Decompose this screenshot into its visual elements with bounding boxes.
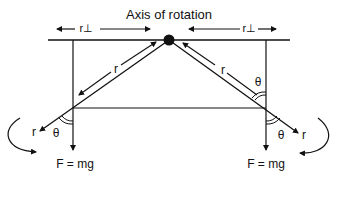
r-perp-left-dimension: r⊥	[57, 22, 150, 34]
r-perp-right-dimension: r⊥	[189, 22, 276, 34]
torque-diagram: Axis of rotation r⊥ r⊥ r r θ	[0, 0, 337, 198]
r-perp-right-label: r⊥	[242, 22, 255, 34]
force-left-label: F = mg	[56, 157, 94, 171]
r-right-label: r	[221, 63, 225, 77]
theta-lower-right-arc	[266, 116, 280, 124]
r-perp-left-label: r⊥	[79, 22, 92, 34]
theta-lower-left: θ	[53, 126, 60, 140]
r-vector-left-label: r	[32, 125, 36, 139]
axis-of-rotation-label: Axis of rotation	[126, 7, 212, 22]
theta-upper-right: θ	[255, 75, 262, 89]
force-right-label: F = mg	[247, 157, 285, 171]
r-left-label: r	[114, 62, 118, 76]
theta-lower-right: θ	[278, 128, 285, 142]
r-left-dimension: r	[79, 42, 156, 95]
r-vector-right-label: r	[302, 128, 306, 142]
r-right-dimension: r	[183, 43, 257, 95]
pivot-point	[164, 35, 175, 46]
theta-lower-left-arc	[59, 116, 73, 124]
left-r-vector	[40, 40, 169, 131]
